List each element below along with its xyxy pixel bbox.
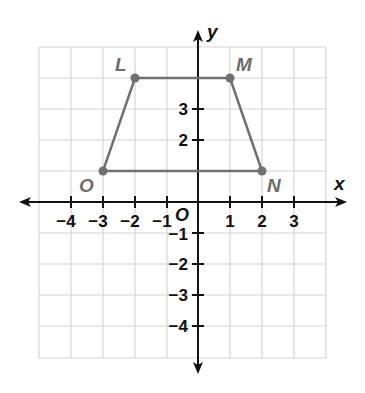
- origin-label: O: [175, 205, 189, 225]
- y-tick-label: −3: [169, 286, 188, 305]
- vertex-n: [258, 167, 267, 176]
- x-tick-label: −3: [88, 212, 107, 231]
- trapezoid-lmno: [103, 78, 262, 171]
- vertex-label-n: N: [267, 175, 282, 196]
- vertex-o: [99, 167, 108, 176]
- coordinate-plane: L M N O y x O −4 −3 −2 −1 1 2 3 3 2 −1 −…: [0, 0, 365, 393]
- y-tick-label: −2: [169, 255, 188, 274]
- x-tick-label: −4: [56, 212, 76, 231]
- x-tick-label: 2: [257, 212, 266, 231]
- y-tick-label: 3: [179, 100, 188, 119]
- x-tick-label: 3: [289, 212, 298, 231]
- vertex-l: [131, 74, 140, 83]
- y-tick-label: −1: [169, 225, 188, 244]
- x-axis-label: x: [333, 173, 346, 194]
- vertex-label-o: O: [79, 175, 94, 196]
- vertex-label-l: L: [115, 54, 127, 75]
- x-tick-label: 1: [225, 212, 234, 231]
- vertex-label-m: M: [236, 54, 253, 75]
- vertices: [99, 74, 267, 176]
- x-tick-label: −2: [120, 212, 139, 231]
- y-axis-label: y: [206, 21, 219, 42]
- y-tick-label: −4: [169, 317, 189, 336]
- y-tick-label: 2: [179, 131, 188, 150]
- vertex-m: [226, 74, 235, 83]
